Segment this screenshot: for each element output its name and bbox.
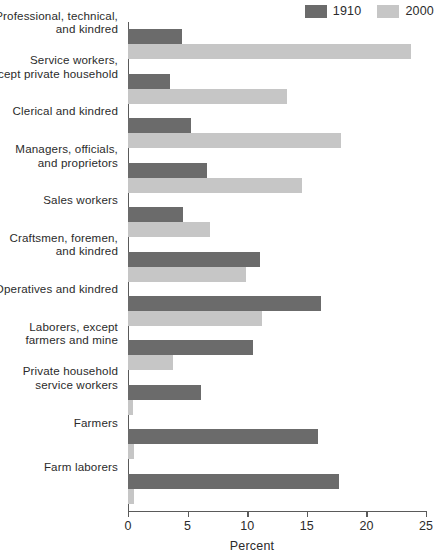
- bar-2000: [128, 89, 287, 104]
- x-axis-tick-label: 10: [240, 519, 254, 533]
- bar-2000: [128, 489, 134, 504]
- category-label-line: Craftsmen, foremen,: [0, 231, 118, 245]
- bar-group: [128, 474, 426, 504]
- bar-1910: [128, 429, 318, 444]
- category-label-line: Professional, technical,: [0, 9, 118, 23]
- bar-2000: [128, 178, 302, 193]
- legend-swatch-icon-2000: [377, 5, 399, 18]
- bar-group: [128, 296, 426, 326]
- bar-1910: [128, 340, 253, 355]
- bar-2000: [128, 133, 341, 148]
- bar-group: [128, 429, 426, 459]
- bar-1910: [128, 118, 191, 133]
- x-axis-line: [128, 511, 426, 512]
- category-label: Farmers: [0, 416, 118, 430]
- legend-item-2000: 2000: [377, 4, 434, 18]
- category-label: Private householdservice workers: [0, 364, 118, 391]
- legend-item-1910: 1910: [305, 4, 362, 18]
- category-label: Clerical and kindred: [0, 104, 118, 118]
- legend-label-1910: 1910: [333, 4, 362, 18]
- bar-2000: [128, 267, 246, 282]
- x-axis-tick-label: 25: [419, 519, 433, 533]
- bar-2000: [128, 311, 262, 326]
- bar-1910: [128, 163, 207, 178]
- bar-group: [128, 340, 426, 370]
- bar-1910: [128, 296, 321, 311]
- category-label-line: Farm laborers: [0, 460, 118, 474]
- x-axis-tick: [247, 511, 248, 517]
- bar-group: [128, 74, 426, 104]
- category-label-line: service workers: [0, 378, 118, 392]
- category-label-line: except private household: [0, 67, 118, 81]
- bar-2000: [128, 355, 173, 370]
- bar-2000: [128, 444, 134, 459]
- x-axis-label: Percent: [0, 539, 448, 553]
- x-axis-tick-label: 5: [184, 519, 191, 533]
- category-label-line: and kindred: [0, 22, 118, 36]
- bar-group: [128, 29, 426, 59]
- bar-group: [128, 252, 426, 282]
- x-axis-tick: [128, 511, 129, 517]
- category-label: Craftsmen, foremen,and kindred: [0, 231, 118, 258]
- category-label-line: Service workers,: [0, 53, 118, 67]
- x-axis-tick: [366, 511, 367, 517]
- bar-group: [128, 118, 426, 148]
- legend-swatch-icon-1910: [305, 5, 327, 18]
- bar-1910: [128, 385, 201, 400]
- bar-1910: [128, 74, 170, 89]
- category-label-line: Clerical and kindred: [0, 104, 118, 118]
- bar-1910: [128, 207, 183, 222]
- category-label: Farm laborers: [0, 460, 118, 474]
- bar-chart: 1910 2000 0510152025 Percent Professiona…: [0, 0, 448, 559]
- bar-group: [128, 385, 426, 415]
- chart-legend: 1910 2000: [305, 4, 434, 18]
- category-label-line: farmers and mine: [0, 333, 118, 347]
- x-axis-tick: [426, 511, 427, 517]
- category-label: Operatives and kindred: [0, 282, 118, 296]
- x-axis-label-text: Percent: [230, 539, 274, 553]
- bar-1910: [128, 29, 182, 44]
- bar-group: [128, 207, 426, 237]
- category-label-line: Managers, officials,: [0, 142, 118, 156]
- x-axis-tick-label: 15: [300, 519, 314, 533]
- category-label: Sales workers: [0, 193, 118, 207]
- category-label-line: Private household: [0, 364, 118, 378]
- bar-1910: [128, 474, 339, 489]
- category-label: Service workers,except private household: [0, 53, 118, 80]
- category-label-line: Sales workers: [0, 193, 118, 207]
- x-axis-tick: [307, 511, 308, 517]
- bar-2000: [128, 44, 411, 59]
- category-label: Laborers, exceptfarmers and mine: [0, 320, 118, 347]
- category-label-line: Laborers, except: [0, 320, 118, 334]
- x-axis-tick-label: 0: [125, 519, 132, 533]
- x-axis-tick: [188, 511, 189, 517]
- category-label: Managers, officials,and proprietors: [0, 142, 118, 169]
- plot-area: [128, 22, 426, 511]
- bar-2000: [128, 222, 210, 237]
- bar-1910: [128, 252, 260, 267]
- category-label-line: and kindred: [0, 244, 118, 258]
- category-label-line: and proprietors: [0, 156, 118, 170]
- bar-2000: [128, 400, 133, 415]
- category-label: Professional, technical,and kindred: [0, 9, 118, 36]
- bar-group: [128, 163, 426, 193]
- category-label-line: Farmers: [0, 416, 118, 430]
- category-label-line: Operatives and kindred: [0, 282, 118, 296]
- legend-label-2000: 2000: [405, 4, 434, 18]
- x-axis-tick-label: 20: [359, 519, 373, 533]
